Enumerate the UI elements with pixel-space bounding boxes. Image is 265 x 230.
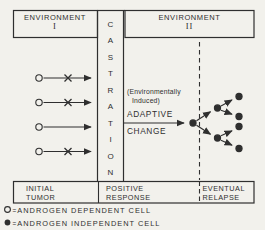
legend-dependent-row: =ANDROGEN DEPENDENT CELL [13,206,152,215]
castration-letter: O [107,153,113,161]
environmentally-induced-note-line1: (Environmentally [127,88,181,95]
legend-independent-label: ANDROGEN INDEPENDENT CELL [17,219,160,228]
positive-response-line1: POSITIVE [106,184,151,193]
legend-independent-row: =ANDROGEN INDEPENDENT CELL [13,219,161,228]
open-circle-dependent-cell-icon [36,75,42,81]
eventual-relapse-line1: EVENTUAL [203,184,246,193]
castration-letter: A [108,103,113,111]
castration-letter: N [108,169,114,177]
environment-1-numeral: I [13,22,97,32]
legend-dependent-label: ANDROGEN DEPENDENT CELL [17,206,151,215]
filled-circle-independent-cell-icon [190,120,196,126]
surviving-cell-arrow [36,124,91,130]
castration-letter: S [108,54,113,62]
open-circle-dependent-cell-icon [36,99,42,105]
legend-filled-circle-icon [5,220,11,226]
castration-letter: C [108,21,114,29]
environment-1-header: ENVIRONMENT I [13,14,97,32]
castration-letter: A [108,37,113,45]
filled-circle-independent-cell-icon [236,113,242,119]
filled-circle-independent-cell-icon [236,145,242,151]
filled-circle-independent-cell-icon [214,105,220,111]
initial-tumor-label: INITIAL TUMOR [26,184,55,202]
eventual-relapse-line2: RELAPSE [203,193,246,202]
eventual-relapse-label: EVENTUAL RELAPSE [203,184,246,202]
castration-letter: R [108,87,114,95]
environment-2-header: ENVIRONMENT II [125,14,254,32]
dependent-cell-arrow-1 [36,75,91,82]
independent-cell-clone-tree [190,93,242,151]
castration-vertical-label: C A S T R A T I O N [98,21,123,177]
initial-tumor-cell-arrows [36,75,91,156]
castration-letter: T [108,120,113,128]
castration-letter: I [109,136,111,144]
open-circle-dependent-cell-icon [36,148,42,154]
initial-tumor-line2: TUMOR [26,193,55,202]
castration-letter: T [108,70,113,78]
environmentally-induced-note-line2: Induced) [132,97,160,104]
filled-circle-independent-cell-icon [214,135,220,141]
filled-circle-independent-cell-icon [236,123,242,129]
castration-adaptive-change-diagram: ENVIRONMENT I ENVIRONMENT II C A S T R A… [0,0,265,230]
legend-open-circle-icon [5,207,11,213]
positive-response-label: POSITIVE RESPONSE [106,184,151,202]
open-circle-dependent-cell-icon [36,124,42,130]
positive-response-line2: RESPONSE [106,193,151,202]
environment-2-numeral: II [125,22,254,32]
filled-circle-independent-cell-icon [236,93,242,99]
change-label: CHANGE [127,126,166,136]
dependent-cell-arrow-4 [36,148,91,155]
dependent-cell-arrow-2 [36,99,91,106]
adaptive-label: ADAPTIVE [127,109,173,119]
initial-tumor-line1: INITIAL [26,184,55,193]
